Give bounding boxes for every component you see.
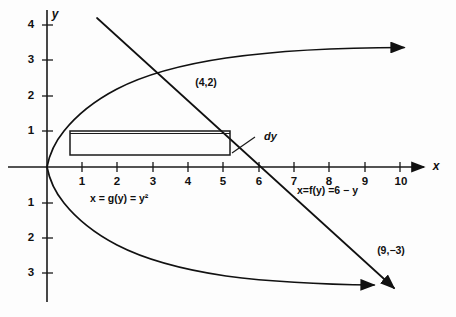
dy-label: dy — [264, 130, 278, 142]
y-tick-label-2: 2 — [28, 89, 34, 101]
x-tick-label-1: 1 — [79, 175, 86, 187]
parabola-upper-branch — [47, 48, 404, 168]
x-tick-label-2: 2 — [114, 175, 120, 187]
parabola-equation-label: x = g(y) = y² — [90, 192, 149, 204]
lower-intersection-label: (9,−3) — [377, 244, 405, 256]
y-tick-label-neg-1: 1 — [28, 196, 35, 208]
x-tick-label-5: 5 — [220, 175, 227, 187]
x-axis-label: x — [432, 159, 441, 173]
dy-strip-rectangle — [70, 131, 230, 155]
x-tick-label-10: 10 — [395, 175, 408, 187]
x-tick-label-9: 9 — [362, 175, 368, 187]
x-tick-label-group: 1 2 3 4 5 6 7 8 9 10 — [79, 175, 408, 187]
y-tick-label-3: 3 — [28, 53, 34, 65]
graph-canvas: 1 2 3 4 5 6 7 8 9 10 1 2 3 4 1 2 — [0, 0, 456, 317]
line-f-of-y — [97, 18, 394, 288]
y-tick-label-group: 1 2 3 4 1 2 3 — [28, 18, 35, 278]
x-tick-label-3: 3 — [150, 175, 156, 187]
y-tick-label-1: 1 — [28, 124, 35, 136]
y-tick-label-neg-3: 3 — [28, 266, 34, 278]
x-tick-label-6: 6 — [256, 175, 262, 187]
y-tick-label-4: 4 — [28, 18, 35, 30]
line-equation-label: x=f(y) =6 − y — [297, 184, 358, 196]
figure-container: 1 2 3 4 5 6 7 8 9 10 1 2 3 4 1 2 — [0, 0, 456, 317]
y-axis-label: y — [51, 7, 60, 21]
x-tick-label-4: 4 — [185, 175, 192, 187]
upper-intersection-label: (4,2) — [195, 76, 217, 88]
y-tick-label-neg-2: 2 — [28, 231, 34, 243]
